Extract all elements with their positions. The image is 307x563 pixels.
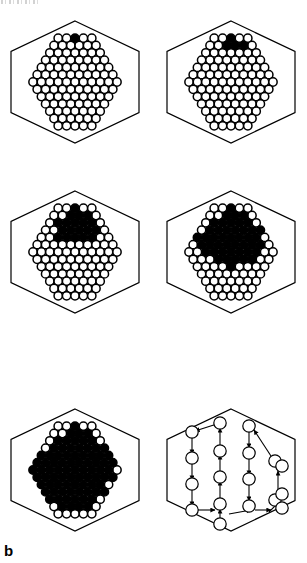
open-circle [235, 292, 243, 300]
open-circle [71, 122, 79, 130]
arrow-diag-up-left-right-top [254, 430, 271, 456]
open-circle [227, 122, 235, 130]
filled-circle [62, 233, 70, 241]
open-circle [62, 122, 70, 130]
open-circle [227, 292, 235, 300]
panel-growth-step-5 [0, 395, 150, 545]
node-circle [243, 447, 255, 459]
panel-growth-step-3 [0, 177, 150, 327]
open-circle-group [29, 34, 121, 130]
arrow-group [192, 423, 278, 520]
open-circle [88, 292, 96, 300]
filled-circle [75, 502, 83, 510]
panel-growth-step-4 [156, 177, 306, 327]
node-circle [243, 500, 255, 512]
open-circle [54, 122, 62, 130]
open-circle [235, 122, 243, 130]
filled-circle [88, 233, 96, 241]
node-circle [276, 460, 288, 472]
filled-circle [100, 488, 108, 496]
filled-circle [239, 255, 247, 263]
node-circle [186, 504, 198, 516]
node-circle-group [186, 417, 288, 530]
open-circle [62, 292, 70, 300]
node-circle [276, 502, 288, 514]
panel-growth-step-1 [0, 7, 150, 157]
filled-circle [227, 262, 235, 270]
filled-circle [71, 34, 79, 42]
filled-circle [46, 495, 54, 503]
filled-circle-group [71, 34, 79, 42]
filled-circle [248, 255, 256, 263]
filled-circle [54, 233, 62, 241]
filled-circle [239, 41, 247, 49]
panel-arrow-diagram [156, 395, 306, 545]
open-circle [244, 122, 252, 130]
node-circle [214, 417, 226, 429]
open-circle [79, 292, 87, 300]
open-circle [79, 122, 87, 130]
panel-growth-step-2 [156, 7, 306, 157]
node-circle [186, 452, 198, 464]
node-circle [276, 488, 288, 500]
figure-panel-label: b [4, 543, 13, 558]
filled-circle [67, 502, 75, 510]
node-circle [214, 445, 226, 457]
filled-circle [202, 248, 210, 256]
filled-circle [71, 233, 79, 241]
node-circle [214, 518, 226, 530]
scan-artifact [1, 0, 41, 4]
open-circle [244, 292, 252, 300]
open-circle [88, 122, 96, 130]
node-circle [243, 420, 255, 432]
filled-circle [223, 41, 231, 49]
open-circle [54, 292, 62, 300]
node-circle [214, 498, 226, 510]
figure-root: b [0, 0, 307, 563]
filled-circle [58, 502, 66, 510]
open-circle [71, 292, 79, 300]
open-circle [218, 292, 226, 300]
open-circle [210, 292, 218, 300]
node-circle [214, 471, 226, 483]
filled-circle [231, 41, 239, 49]
filled-circle [214, 255, 222, 263]
open-circle [210, 122, 218, 130]
filled-circle [109, 473, 117, 481]
node-circle [186, 478, 198, 490]
filled-circle [83, 502, 91, 510]
node-circle [243, 473, 255, 485]
filled-circle [79, 233, 87, 241]
node-circle [186, 426, 198, 438]
open-circle-group [185, 34, 277, 130]
open-circle [218, 122, 226, 130]
